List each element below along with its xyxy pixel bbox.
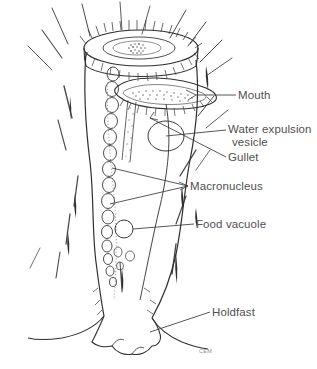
ciliate-drawing: [0, 0, 317, 369]
label-macronucleus: Macronucleus: [190, 180, 263, 193]
label-holdfast: Holdfast: [212, 306, 255, 319]
label-gullet: Gullet: [228, 151, 259, 164]
label-food-vacuole: Food vacuole: [196, 218, 266, 231]
label-water-expulsion-vesicle: Water expulsionvesicle: [228, 123, 312, 148]
artist-signature: CEM: [199, 348, 212, 354]
label-wev-line2: vesicle: [232, 136, 268, 149]
canvas-background: [0, 0, 317, 369]
label-wev-line1: Water expulsion: [228, 123, 312, 135]
ciliate-anatomy-figure: Mouth Water expulsionvesicle Gullet Macr…: [0, 0, 317, 369]
label-mouth: Mouth: [238, 89, 270, 102]
